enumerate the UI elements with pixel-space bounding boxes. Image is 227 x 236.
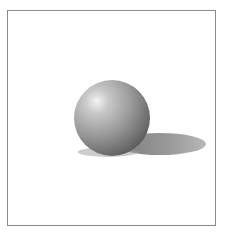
sphere bbox=[74, 80, 150, 156]
sphere-illustration bbox=[0, 0, 227, 236]
